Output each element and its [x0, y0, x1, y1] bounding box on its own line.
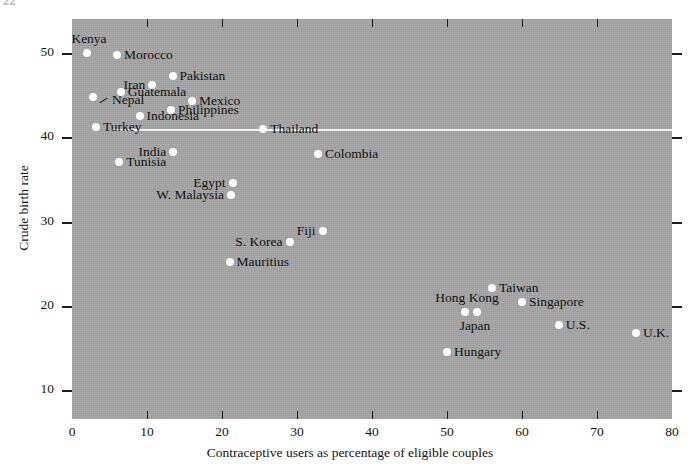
- data-point-nepal[interactable]: [89, 93, 97, 101]
- x-tick-bottom-10: [147, 411, 148, 419]
- y-tick-left-10: [62, 390, 72, 392]
- reference-rule: [112, 129, 672, 131]
- x-tick-top-60: [522, 19, 523, 27]
- x-tick-bottom-70: [597, 411, 598, 419]
- data-label-colombia: Colombia: [325, 146, 378, 162]
- data-label-nepal: Nepal: [112, 92, 144, 108]
- data-point-thailand[interactable]: [259, 125, 267, 133]
- x-tick-bottom-20: [222, 411, 223, 419]
- data-point-colombia[interactable]: [314, 150, 322, 158]
- y-tick-right-40: [672, 137, 682, 139]
- y-tick-left-20: [62, 306, 72, 308]
- data-point-hungary[interactable]: [443, 348, 451, 356]
- y-tick-label-30: 30: [24, 213, 54, 229]
- data-label-tunisia: Tunisia: [126, 154, 166, 170]
- data-label-thailand: Thailand: [270, 121, 318, 137]
- data-point-japan[interactable]: [473, 308, 481, 316]
- scatter-figure: 22 KenyaMoroccoPakistanIranGuatemalaNepa…: [0, 0, 700, 467]
- data-point-u-s[interactable]: [555, 321, 563, 329]
- x-tick-bottom-30: [297, 411, 298, 419]
- x-tick-label-10: 10: [127, 424, 167, 440]
- y-tick-right-50: [672, 53, 682, 55]
- y-tick-left-40: [62, 137, 72, 139]
- data-label-morocco: Morocco: [124, 47, 173, 63]
- page-corner-mark: 22: [3, 0, 16, 9]
- data-label-w-malaysia: W. Malaysia: [156, 187, 224, 203]
- y-tick-label-50: 50: [24, 44, 54, 60]
- y-tick-right-10: [672, 390, 682, 392]
- y-tick-right-30: [672, 222, 682, 224]
- data-label-mauritius: Mauritius: [237, 254, 290, 270]
- data-label-singapore: Singapore: [529, 294, 584, 310]
- x-tick-bottom-60: [522, 411, 523, 419]
- data-point-hong-kong[interactable]: [461, 308, 469, 316]
- data-label-japan: Japan: [460, 318, 491, 334]
- data-point-pakistan[interactable]: [169, 72, 177, 80]
- data-label-fiji: Fiji: [297, 223, 316, 239]
- plot-area: KenyaMoroccoPakistanIranGuatemalaNepalMe…: [72, 19, 672, 419]
- data-point-mauritius[interactable]: [226, 258, 234, 266]
- data-point-fiji[interactable]: [319, 227, 327, 235]
- x-tick-bottom-40: [372, 411, 373, 419]
- data-label-kenya: Kenya: [71, 31, 106, 47]
- data-label-turkey: Turkey: [103, 119, 142, 135]
- x-tick-label-40: 40: [352, 424, 392, 440]
- x-tick-label-50: 50: [427, 424, 467, 440]
- x-tick-top-50: [447, 19, 448, 27]
- x-axis-title: Contraceptive users as percentage of eli…: [0, 445, 700, 461]
- x-tick-label-20: 20: [202, 424, 242, 440]
- data-point-turkey[interactable]: [92, 123, 100, 131]
- data-label-u-k: U.K.: [643, 325, 669, 341]
- x-tick-label-60: 60: [502, 424, 542, 440]
- y-tick-label-10: 10: [24, 381, 54, 397]
- data-point-egypt[interactable]: [229, 179, 237, 187]
- y-tick-label-20: 20: [24, 297, 54, 313]
- x-tick-label-0: 0: [52, 424, 92, 440]
- data-label-s-korea: S. Korea: [235, 234, 282, 250]
- x-tick-label-30: 30: [277, 424, 317, 440]
- x-tick-top-30: [297, 19, 298, 27]
- data-point-s-korea[interactable]: [286, 238, 294, 246]
- data-point-tunisia[interactable]: [115, 158, 123, 166]
- data-point-india[interactable]: [169, 148, 177, 156]
- y-tick-right-20: [672, 306, 682, 308]
- leader-line-nepal: [99, 98, 110, 108]
- data-label-indonesia: Indonesia: [147, 108, 199, 124]
- data-label-u-s: U.S.: [566, 317, 590, 333]
- x-tick-top-20: [222, 19, 223, 27]
- x-tick-label-70: 70: [577, 424, 617, 440]
- y-tick-left-30: [62, 222, 72, 224]
- x-tick-top-10: [147, 19, 148, 27]
- data-point-kenya[interactable]: [83, 49, 91, 57]
- data-label-hungary: Hungary: [454, 344, 501, 360]
- data-point-u-k[interactable]: [632, 329, 640, 337]
- x-tick-bottom-50: [447, 411, 448, 419]
- data-point-w-malaysia[interactable]: [227, 191, 235, 199]
- x-tick-label-80: 80: [652, 424, 692, 440]
- data-point-singapore[interactable]: [518, 298, 526, 306]
- y-tick-label-40: 40: [24, 128, 54, 144]
- y-tick-left-50: [62, 53, 72, 55]
- data-label-pakistan: Pakistan: [180, 68, 226, 84]
- data-label-hong-kong: Hong Kong: [435, 290, 498, 306]
- data-point-morocco[interactable]: [113, 51, 121, 59]
- x-tick-top-70: [597, 19, 598, 27]
- x-tick-top-40: [372, 19, 373, 27]
